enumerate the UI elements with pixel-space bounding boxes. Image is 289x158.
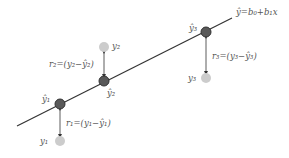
observed-label-3: y₃ [187, 73, 197, 83]
regression-equation-label: ŷ=b₀+b₁x [235, 7, 278, 17]
fitted-point-3 [201, 27, 211, 37]
fitted-label-3: ŷ₃ [188, 23, 198, 33]
observed-point-1 [55, 136, 65, 146]
regression-diagram: ŷ=b₀+b₁x ŷ₁ ŷ₂ ŷ₃ y₁ y₂ y₃ r₁=(y₁−ŷ₁) r₂… [0, 0, 289, 158]
fitted-point-2 [99, 76, 109, 86]
fitted-point-1 [55, 99, 65, 109]
observed-point-2 [99, 42, 109, 52]
regression-line [17, 18, 232, 126]
fitted-label-2: ŷ₂ [106, 88, 116, 98]
observed-label-2: y₂ [111, 41, 121, 51]
observed-point-3 [201, 73, 211, 83]
residual-label-3: r₃=(y₃−ŷ₃) [212, 51, 257, 61]
residual-label-1: r₁=(y₁−ŷ₁) [66, 118, 111, 128]
fitted-label-1: ŷ₁ [41, 94, 50, 104]
observed-label-1: y₁ [39, 136, 48, 146]
residual-label-2: r₂=(y₂−ŷ₂) [49, 59, 94, 69]
